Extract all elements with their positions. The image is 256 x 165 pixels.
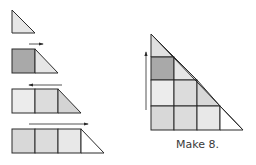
step-2-shape: [12, 44, 58, 73]
step-4-shape: [12, 124, 104, 153]
step-3-shape: [12, 85, 81, 113]
result-triangle: [146, 34, 243, 130]
step-1-triangle: [12, 10, 35, 33]
caption: Make 8.: [176, 138, 219, 151]
